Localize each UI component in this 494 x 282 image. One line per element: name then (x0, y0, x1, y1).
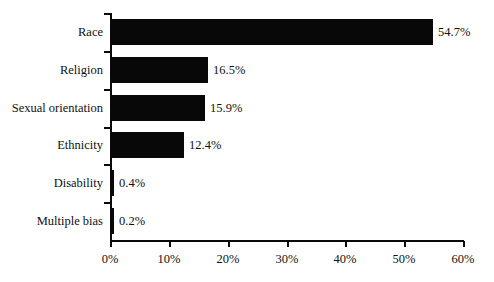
bar-value-label: 0.4% (119, 176, 145, 190)
y-axis-tick (104, 164, 111, 166)
category-label-wrap: Disability (0, 176, 103, 190)
y-axis-tick (104, 89, 111, 91)
category-label: Disability (54, 176, 103, 190)
x-axis-tick-label: 0% (80, 252, 140, 266)
category-label: Religion (60, 63, 103, 77)
category-label-wrap: Multiple bias (0, 214, 103, 228)
bar (111, 19, 433, 45)
y-axis-tick (104, 202, 111, 204)
x-axis-tick (463, 241, 465, 247)
category-label: Multiple bias (37, 214, 103, 228)
x-axis-tick-label: 60% (433, 252, 493, 266)
bar-value-label: 0.2% (119, 214, 145, 228)
x-axis-tick (345, 241, 347, 247)
bar (111, 208, 114, 234)
plot-area: RaceReligionSexual orientationEthnicityD… (0, 0, 494, 282)
bar-value-label: 54.7% (438, 25, 470, 39)
x-axis-tick-label: 20% (198, 252, 258, 266)
x-axis-tick-label: 40% (315, 252, 375, 266)
bar (111, 170, 114, 196)
y-axis-tick (104, 13, 111, 15)
x-axis-tick (228, 241, 230, 247)
bar-value-label: 15.9% (210, 101, 242, 115)
x-axis-tick-label: 10% (139, 252, 199, 266)
y-axis-tick (104, 51, 111, 53)
bar-value-label: 12.4% (189, 138, 221, 152)
x-axis-tick (169, 241, 171, 247)
category-label: Ethnicity (57, 138, 103, 152)
bar (111, 57, 208, 83)
x-axis-tick (404, 241, 406, 247)
category-label: Race (78, 25, 103, 39)
x-axis-tick-label: 30% (257, 252, 317, 266)
bar-value-label: 16.5% (213, 63, 245, 77)
category-label-wrap: Ethnicity (0, 138, 103, 152)
category-label-wrap: Religion (0, 63, 103, 77)
x-axis-tick (287, 241, 289, 247)
y-axis-tick (104, 127, 111, 129)
bar (111, 132, 184, 158)
category-label: Sexual orientation (12, 101, 103, 115)
chart-figure: RaceReligionSexual orientationEthnicityD… (0, 0, 494, 282)
category-label-wrap: Race (0, 25, 103, 39)
x-axis-tick (110, 241, 112, 247)
bar (111, 95, 205, 121)
x-axis-tick-label: 50% (374, 252, 434, 266)
category-label-wrap: Sexual orientation (0, 101, 103, 115)
